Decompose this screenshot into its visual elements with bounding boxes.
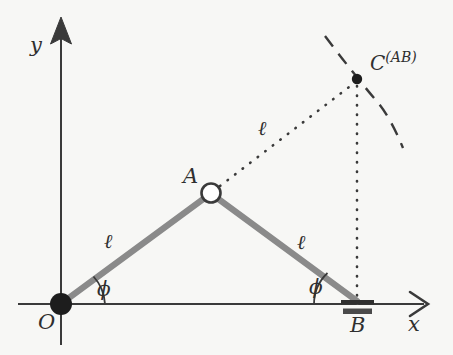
point-C-marker <box>352 74 362 84</box>
point-B-slider-bar <box>341 300 374 305</box>
point-A-label: A <box>183 166 198 187</box>
angle-label-at-B: ϕ <box>309 277 323 297</box>
point-C-label-base: C <box>370 51 385 75</box>
point-C-label: C(AB) <box>370 50 417 73</box>
dotted-line-A-to-C <box>220 84 353 186</box>
point-B-label: B <box>350 315 365 336</box>
x-axis-label: x <box>408 314 420 335</box>
link-AB <box>217 198 357 301</box>
length-label-AB: ℓ <box>297 232 305 252</box>
point-C-label-superscript: (AB) <box>385 49 416 65</box>
length-label-OA: ℓ <box>104 231 112 251</box>
link-OA <box>62 197 206 303</box>
length-label-AC: ℓ <box>258 118 266 138</box>
figure-canvas: y x O A B C(AB) ℓ ℓ ℓ ϕ ϕ <box>0 0 453 355</box>
y-axis-label: y <box>30 35 42 56</box>
point-O-label: O <box>38 312 55 333</box>
angle-label-at-O: ϕ <box>97 279 111 299</box>
point-A-marker <box>202 184 221 203</box>
